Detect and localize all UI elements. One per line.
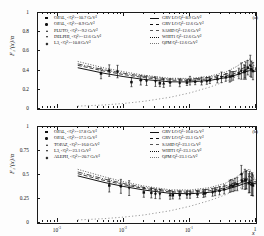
x-tick-mark-top [123,12,124,16]
line-swatch [150,151,159,152]
x-tick-mark-top [245,12,246,14]
x-tick-mark-top [245,126,246,128]
legend-marker-square-icon [42,15,51,21]
legend-line-solid-icon [150,129,159,135]
marker-glyph [45,23,47,25]
legend-marker-circle-icon [42,22,51,28]
x-tick-mark [240,106,241,108]
x-tick-mark [252,106,253,108]
line-swatch [150,138,159,139]
data-marker-square [108,184,111,187]
legend-entry: L3, <Q²>=10.8 GeV² [42,41,101,47]
x-tick-mark-top [252,12,253,14]
y-tick-label: 0.2 [22,86,29,92]
x-tick-mark-top [154,12,155,14]
model-curve [78,65,256,80]
y-tick-label: 0 [26,105,29,111]
data-marker-square [218,189,221,192]
marker-glyph [45,156,48,159]
x-tick-mark-top [154,126,155,128]
x-tick-mark [47,220,48,222]
x-tick-mark-top [50,12,51,14]
x-tick-mark [97,106,98,108]
x-tick-mark [120,220,121,222]
y-tick-mark [37,174,40,175]
x-tick-mark [108,106,109,108]
x-tick-mark-top [235,12,236,14]
x-tick-mark [183,106,184,108]
x-tick-mark [117,220,118,222]
y-tick-label: 0.4 [22,67,29,73]
marker-glyph [45,131,47,133]
y-tick-label: 0.25 [20,195,29,201]
x-tick-mark-top [113,12,114,14]
data-marker-diamond [211,191,214,194]
x-tick-mark [249,106,250,108]
data-marker-circle [150,192,153,195]
line-swatch [150,132,159,133]
y-tick-mark [37,50,40,51]
x-tick-mark [154,220,155,222]
x-tick-mark-top [120,126,121,128]
x-axis-label: x [252,230,255,236]
data-marker-circle [194,80,197,83]
line-swatch [150,30,159,31]
marker-glyph [45,17,47,19]
data-marker-square [130,81,133,84]
x-tick-mark-top [220,126,221,128]
line-swatch [150,24,159,25]
x-tick-mark-top [123,126,124,130]
panel-a-yticks: 10.80.60.40.20 [0,0,35,118]
data-marker-triangle-down [188,193,191,196]
marker-glyph [45,137,47,139]
x-tick-mark [57,218,58,222]
legend-label: QPM Q²=12.6 GeV² [162,40,197,47]
x-tick-mark [189,218,190,222]
data-marker-square [159,82,162,85]
x-tick-mark [42,106,43,108]
x-tick-mark [113,106,114,108]
y-tick-label: 0.6 [22,47,29,53]
legend-marker-triangle-down-icon [42,148,51,154]
y-tick-label: 0.5 [22,171,29,177]
x-tick-mark-top [229,12,230,14]
x-tick-mark-top [108,12,109,14]
panel-a-legend-models: GRV LO Q²=8.9 GeV²GRV LO Q²=12.6 GeV²SAS… [150,15,203,47]
data-marker-circle [223,188,226,191]
y-tick-label: 1 [26,123,29,129]
legend-label: QPM Q²=23.1 GeV² [162,154,197,161]
x-tick-mark [113,220,114,222]
x-tick-mark [255,218,256,222]
legend-entry: QPM Q²=23.1 GeV² [150,155,203,161]
x-tick-mark [123,104,124,108]
marker-glyph [46,30,48,32]
x-tick-mark [245,220,246,222]
legend-line-dashdot-icon [150,142,159,148]
y-tick-mark [37,150,40,151]
x-tick-mark [220,106,221,108]
data-marker-square [172,194,175,197]
x-tick-mark [235,106,236,108]
data-marker-circle [232,75,235,78]
data-marker-diamond [205,79,208,82]
x-tick-mark [163,220,164,222]
figure-root: F₂ʳ(x)/α 10.80.60.40.20 (a) OPAL, <Q²>=1… [0,0,264,236]
legend-marker-triangle-down-icon [42,34,51,40]
line-swatch [150,144,159,145]
data-marker-square [209,79,212,82]
x-tick-mark-top [209,12,210,14]
x-tick-mark [249,220,250,222]
y-tick-label: 0.8 [22,28,29,34]
x-tick-mark [169,220,170,222]
data-marker-square [246,66,249,69]
y-tick-mark [37,108,40,109]
x-tick-mark-top [240,12,241,14]
data-marker-square [232,185,235,188]
legend-line-dashdot-icon [150,28,159,34]
x-tick-mark [88,106,89,108]
x-tick-mark [229,220,230,222]
data-marker-diamond [154,192,157,195]
x-tick-mark [179,106,180,108]
x-tick-mark [120,106,121,108]
x-tick-mark [57,104,58,108]
